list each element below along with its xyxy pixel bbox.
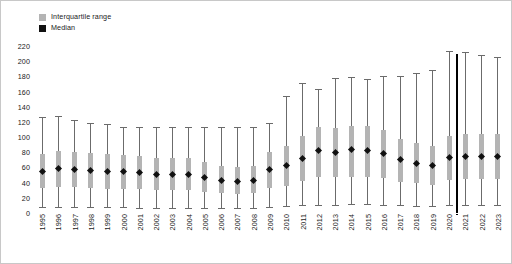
whisker-cap-upper xyxy=(348,77,355,78)
whisker-cap-upper xyxy=(462,52,469,53)
x-axis-tick-label: 2008 xyxy=(250,214,259,230)
box-plot-item[interactable] xyxy=(246,46,262,213)
whisker-cap-lower xyxy=(136,208,143,209)
whisker-cap-lower xyxy=(397,205,404,206)
whisker-cap-lower xyxy=(299,205,306,206)
whisker-cap-lower xyxy=(234,208,241,209)
box-plot-item[interactable] xyxy=(50,46,66,213)
box-plot-item[interactable] xyxy=(441,46,457,213)
box-plot-item[interactable] xyxy=(115,46,131,213)
x-axis-tick-label: 2018 xyxy=(412,214,421,230)
whisker-cap-upper xyxy=(315,89,322,90)
box-plot-item[interactable] xyxy=(278,46,294,213)
box-plot-item[interactable] xyxy=(343,46,359,213)
box-plot-item[interactable] xyxy=(197,46,213,213)
box-plot-item[interactable] xyxy=(360,46,376,213)
whisker-line xyxy=(432,70,433,206)
whisker-cap-lower xyxy=(55,207,62,208)
y-axis-tick-label: 80 xyxy=(22,148,30,157)
whisker-cap-upper xyxy=(397,76,404,77)
whisker-cap-upper xyxy=(266,123,273,124)
box-plot-item[interactable] xyxy=(213,46,229,213)
y-axis-tick-label: 40 xyxy=(22,178,30,187)
box-plot-item[interactable] xyxy=(490,46,506,213)
whisker-cap-upper xyxy=(136,127,143,128)
covid-divider-line xyxy=(456,54,458,215)
y-axis-tick-label: 100 xyxy=(18,133,30,142)
whisker-cap-lower xyxy=(153,208,160,209)
x-axis-tick-label: 2014 xyxy=(347,214,356,230)
whisker-cap-lower xyxy=(169,208,176,209)
whisker-cap-lower xyxy=(120,207,127,208)
whisker-cap-lower xyxy=(462,205,469,206)
x-axis-tick-label: 2015 xyxy=(364,214,373,230)
whisker-cap-lower xyxy=(87,207,94,208)
box-plot-item[interactable] xyxy=(311,46,327,213)
whisker-cap-upper xyxy=(283,96,290,97)
box-plot-item[interactable] xyxy=(473,46,489,213)
whisker-line xyxy=(416,73,417,207)
x-axis-tick-label: 2000 xyxy=(120,214,129,230)
x-axis: 1995199619971998199920002001200220032004… xyxy=(34,214,506,262)
x-axis-tick-label: 2023 xyxy=(494,214,503,230)
median-swatch-icon xyxy=(39,25,46,32)
box-plot-item[interactable] xyxy=(392,46,408,213)
whisker-cap-upper xyxy=(185,127,192,128)
x-axis-tick-label: 1997 xyxy=(71,214,80,230)
x-axis-tick-label: 2002 xyxy=(152,214,161,230)
box-plot-item[interactable] xyxy=(229,46,245,213)
x-axis-tick-label: 2001 xyxy=(136,214,145,230)
whisker-cap-lower xyxy=(39,207,46,208)
box-plot-item[interactable] xyxy=(376,46,392,213)
whisker-cap-upper xyxy=(429,70,436,71)
iqr-swatch-icon xyxy=(39,14,46,21)
x-axis-tick-label: 2013 xyxy=(331,214,340,230)
box-plot-item[interactable] xyxy=(148,46,164,213)
box-plot-item[interactable] xyxy=(408,46,424,213)
whisker-cap-upper xyxy=(120,127,127,128)
whisker-cap-lower xyxy=(478,205,485,206)
box-plot-item[interactable] xyxy=(457,46,473,213)
box-plot-item[interactable] xyxy=(294,46,310,213)
box-plot-item[interactable] xyxy=(164,46,180,213)
whisker-cap-upper xyxy=(413,73,420,74)
whisker-cap-upper xyxy=(218,127,225,128)
x-axis-tick-label: 2010 xyxy=(282,214,291,230)
box-plot-item[interactable] xyxy=(67,46,83,213)
whisker-cap-lower xyxy=(413,206,420,207)
box-plot-item[interactable] xyxy=(83,46,99,213)
x-axis-tick-label: 2007 xyxy=(233,214,242,230)
box-plot-item[interactable] xyxy=(180,46,196,213)
box-plot-item[interactable] xyxy=(262,46,278,213)
x-axis-tick-label: 1999 xyxy=(103,214,112,230)
whisker-cap-upper xyxy=(299,83,306,84)
whisker-cap-lower xyxy=(446,205,453,206)
box-plot-item[interactable] xyxy=(99,46,115,213)
whisker-cap-upper xyxy=(380,76,387,77)
whisker-cap-upper xyxy=(478,55,485,56)
y-axis-tick-label: 220 xyxy=(18,42,30,51)
whisker-cap-upper xyxy=(39,117,46,118)
whisker-line xyxy=(481,55,482,205)
x-axis-tick-label: 2022 xyxy=(478,214,487,230)
whisker-cap-lower xyxy=(332,205,339,206)
x-axis-tick-label: 1995 xyxy=(38,214,47,230)
whisker-cap-upper xyxy=(201,127,208,128)
whisker-cap-lower xyxy=(494,205,501,206)
y-axis-tick-label: 160 xyxy=(18,87,30,96)
whisker-cap-upper xyxy=(87,123,94,124)
box-plot-item[interactable] xyxy=(34,46,50,213)
x-axis-tick-label: 2009 xyxy=(266,214,275,230)
x-axis-tick-label: 2011 xyxy=(299,214,308,230)
whisker-cap-upper xyxy=(55,116,62,117)
y-axis-tick-label: 180 xyxy=(18,72,30,81)
box-plot-item[interactable] xyxy=(425,46,441,213)
box-plot-item[interactable] xyxy=(132,46,148,213)
box-plot-item[interactable] xyxy=(327,46,343,213)
x-axis-tick-label: 2020 xyxy=(445,214,454,230)
whisker-line xyxy=(497,57,498,204)
legend-label-iqr: Interquartile range xyxy=(51,13,111,21)
box-series xyxy=(34,46,506,213)
whisker-cap-lower xyxy=(364,204,371,205)
y-axis: 020406080100120140160180200220 xyxy=(1,46,32,213)
